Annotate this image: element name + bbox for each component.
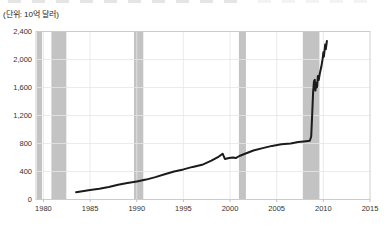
y-tick-label: 2,400: [13, 27, 32, 36]
x-tick-label: 2010: [315, 204, 332, 213]
x-tick-label: 2005: [268, 204, 285, 213]
y-tick-label: 1,200: [13, 111, 32, 120]
y-tick-label: 800: [19, 139, 32, 148]
y-tick-label: 1,600: [13, 83, 32, 92]
x-tick-label: 1980: [35, 204, 52, 213]
x-tick-label: 1990: [128, 204, 145, 213]
monetary-base-line-chart: 04008001,2001,6002,0002,4001980198519901…: [0, 0, 387, 227]
x-tick-label: 2000: [222, 204, 239, 213]
figure: (단위: 10억 달러) 04008001,2001,6002,0002,400…: [0, 0, 387, 227]
x-tick-label: 1995: [175, 204, 192, 213]
y-tick-label: 2,000: [13, 55, 32, 64]
x-tick-label: 2015: [362, 204, 379, 213]
x-tick-label: 1985: [82, 204, 99, 213]
y-tick-label: 400: [19, 167, 32, 176]
series-line-monetary-base: [76, 41, 327, 192]
y-tick-label: 0: [28, 195, 32, 204]
